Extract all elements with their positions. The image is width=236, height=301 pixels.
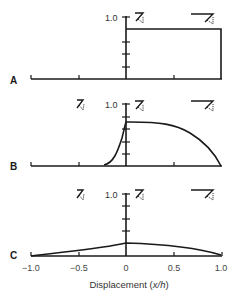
xtick-1: 1.0 — [215, 263, 228, 273]
tilted-edge-icon-left — [77, 190, 84, 200]
tilted-edge-icon-left — [77, 100, 84, 110]
xtick-neg-1: −1.0 — [22, 263, 40, 273]
panel-b-curve — [104, 122, 221, 166]
x-axis-label-suffix: ) — [165, 279, 168, 290]
panel-a-ytick-1: 1.0 — [105, 13, 118, 23]
panel-b-label: B — [10, 161, 17, 172]
panel-a-curve — [126, 29, 221, 79]
panel-c: C 1.0 −1.0 −0.5 0 0.5 1.0 Displacement (… — [10, 190, 227, 290]
edge-bar-icon — [191, 14, 213, 24]
tilted-edge-icon — [135, 101, 143, 111]
tilted-edge-icon — [135, 13, 143, 23]
x-axis-label: Displacement (x/h) — [89, 279, 168, 290]
x-axis-label-var: x/h — [152, 279, 166, 290]
xtick-neg-0-5: −0.5 — [70, 263, 88, 273]
xtick-0: 0 — [123, 263, 128, 273]
panel-a-label: A — [10, 75, 17, 86]
panel-c-label: C — [10, 250, 17, 261]
panel-b: B 1.0 — [10, 100, 222, 172]
tilted-edge-icon — [135, 190, 143, 200]
panel-a: A 1.0 — [10, 13, 222, 86]
panel-c-ytick-1: 1.0 — [105, 190, 118, 200]
panel-b-ytick-1: 1.0 — [105, 100, 118, 110]
x-axis-label-prefix: Displacement ( — [89, 279, 153, 290]
displacement-figure: A 1.0 B 1.0 C — [0, 0, 236, 301]
xtick-0-5: 0.5 — [168, 263, 181, 273]
edge-bar-icon — [191, 101, 213, 111]
edge-bar-icon — [191, 190, 213, 200]
